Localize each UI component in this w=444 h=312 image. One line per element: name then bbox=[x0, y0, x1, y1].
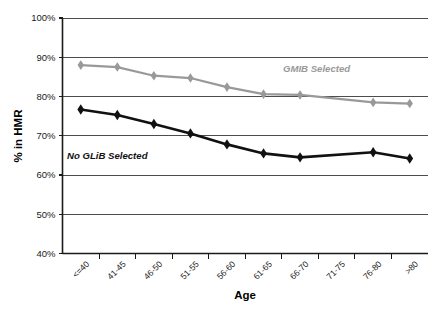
data-point-marker bbox=[187, 73, 193, 83]
data-point-marker bbox=[150, 119, 157, 129]
y-axis-title: % in HMR bbox=[12, 109, 24, 163]
data-point-marker bbox=[114, 62, 120, 72]
line-chart: 40%50%60%70%80%90%100% <=4041-4546-5051-… bbox=[0, 0, 444, 312]
x-axis-tick-label: 46-50 bbox=[142, 259, 165, 282]
series-line-gmib bbox=[81, 65, 410, 103]
data-point-marker bbox=[297, 152, 304, 162]
data-point-marker bbox=[370, 98, 376, 108]
y-axis-tick-label: 50% bbox=[36, 209, 56, 220]
no-glib-series-label: No GLiB Selected bbox=[67, 150, 149, 161]
data-point-marker bbox=[224, 139, 231, 149]
x-axis-tick-label: 76-80 bbox=[361, 259, 384, 282]
data-point-marker bbox=[370, 147, 377, 157]
data-point-marker bbox=[151, 71, 157, 81]
chart-container: 40%50%60%70%80%90%100% <=4041-4546-5051-… bbox=[0, 0, 444, 312]
y-axis-tick-label: 60% bbox=[36, 169, 56, 180]
data-series-group bbox=[77, 60, 413, 163]
x-axis-tick-label: 56-60 bbox=[215, 259, 238, 282]
data-point-marker bbox=[407, 99, 413, 109]
data-point-marker bbox=[187, 128, 194, 138]
x-axis-tick-label: >80 bbox=[403, 259, 421, 277]
data-point-marker bbox=[114, 110, 121, 120]
x-axis-tick-label: 66-70 bbox=[288, 259, 311, 282]
y-axis-tick-label: 100% bbox=[31, 12, 56, 23]
data-point-marker bbox=[260, 89, 266, 99]
y-axis-tick-label: 90% bbox=[36, 52, 56, 63]
data-point-marker bbox=[406, 153, 413, 163]
x-axis-tick-label: 41-45 bbox=[105, 259, 128, 282]
x-axis-tick-label: 71-75 bbox=[324, 259, 347, 282]
y-axis-tick-label: 70% bbox=[36, 130, 56, 141]
y-axis-tick-label: 40% bbox=[36, 248, 56, 259]
data-point-marker bbox=[224, 82, 230, 92]
x-axis-tick-label: <=40 bbox=[70, 259, 91, 280]
data-point-marker bbox=[297, 90, 303, 100]
gmib-series-label: GMIB Selected bbox=[283, 63, 351, 74]
data-point-marker bbox=[78, 60, 84, 70]
y-axis-tick-label: 80% bbox=[36, 91, 56, 102]
data-point-marker bbox=[260, 148, 267, 158]
x-axis-tick-label: 61-65 bbox=[251, 259, 274, 282]
x-axis-tick-label: 51-55 bbox=[178, 259, 201, 282]
x-axis-title: Age bbox=[234, 289, 256, 301]
data-point-marker bbox=[77, 104, 84, 114]
x-axis-tick-labels-group: <=4041-4546-5051-5556-6061-6566-7071-757… bbox=[70, 259, 420, 282]
y-axis-tick-labels-group: 40%50%60%70%80%90%100% bbox=[31, 12, 56, 259]
